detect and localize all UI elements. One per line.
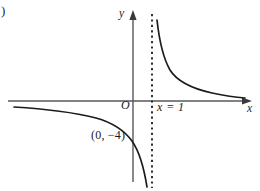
graph-canvas <box>0 0 260 191</box>
y-axis-arrowhead <box>129 10 136 20</box>
asymptote-label: x = 1 <box>157 101 184 113</box>
y-intercept-label: (0, −4) <box>91 129 125 141</box>
curve-right-branch <box>157 20 245 98</box>
y-axis-label: y <box>119 8 124 20</box>
curve-left-branch <box>14 107 147 187</box>
x-axis-label: x <box>247 103 252 115</box>
origin-label: O <box>121 99 130 111</box>
figure-container: ) y x O x = 1 (0, −4) <box>0 0 260 191</box>
part-label: ) <box>1 4 5 17</box>
